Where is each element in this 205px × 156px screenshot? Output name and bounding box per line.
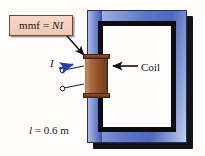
annotation-overlay (0, 0, 205, 156)
mmf-pointer-arrow (67, 36, 84, 55)
current-direction-arrow (59, 65, 73, 69)
lower-lead-wire (64, 84, 84, 88)
magnetic-circuit-figure: mmf = NI Coil I l = 0.6 m (0, 0, 205, 156)
lower-terminal (60, 86, 65, 91)
